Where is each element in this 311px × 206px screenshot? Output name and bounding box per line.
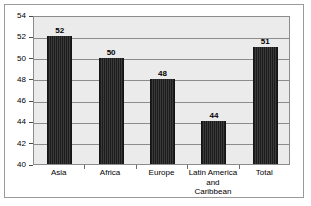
x-axis-tick-label: Asia	[33, 168, 84, 178]
y-axis-tick-label: 50	[0, 55, 26, 63]
bar-value-label: 50	[97, 49, 125, 57]
bar	[201, 121, 226, 164]
x-axis-tick-mark	[136, 165, 137, 169]
x-axis-tick-mark	[84, 165, 85, 169]
x-axis-tick-label: Total	[239, 168, 290, 178]
x-axis-tick-label: Africa	[84, 168, 135, 178]
x-axis-tick-label: Europe	[136, 168, 187, 178]
x-axis-tick-mark	[187, 165, 188, 169]
y-axis-tick-label: 52	[0, 33, 26, 41]
gridline	[34, 59, 289, 60]
y-axis-tick-label: 44	[0, 118, 26, 126]
y-axis-tick-label: 42	[0, 140, 26, 148]
y-axis-tick-label: 46	[0, 97, 26, 105]
x-axis-tick-label-line: Asia	[33, 168, 84, 178]
bar	[47, 36, 72, 164]
y-axis-tick-label: 48	[0, 76, 26, 84]
y-axis-tick-label: 54	[0, 12, 26, 20]
bar-value-label: 52	[46, 27, 74, 35]
x-axis-tick-label-line: Europe	[136, 168, 187, 178]
y-axis-tick-label: 40	[0, 161, 26, 169]
bar-value-label: 51	[251, 38, 279, 46]
x-axis-tick-label: Latin Americaand Caribbean	[187, 168, 238, 197]
x-axis-tick-label-line: Latin America	[187, 168, 238, 178]
bar	[99, 58, 124, 164]
x-axis-tick-mark	[239, 165, 240, 169]
plot-area: 5250484451	[33, 16, 290, 165]
x-axis-tick-label-line: Total	[239, 168, 290, 178]
x-axis: AsiaAfricaEuropeLatin Americaand Caribbe…	[33, 168, 290, 196]
bar-chart-figure: 4042444648505254 5250484451 AsiaAfricaEu…	[0, 0, 311, 206]
y-axis: 4042444648505254	[0, 16, 33, 165]
bar	[253, 47, 278, 164]
bar-value-label: 48	[149, 70, 177, 78]
bar-value-label: 44	[200, 112, 228, 120]
x-axis-tick-label-line: and Caribbean	[187, 178, 238, 197]
x-axis-tick-label-line: Africa	[84, 168, 135, 178]
bar	[150, 79, 175, 164]
